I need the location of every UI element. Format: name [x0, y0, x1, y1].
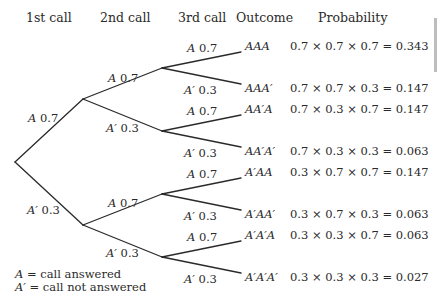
probability-2: 0.7 × 0.7 × 0.3 = 0.147	[290, 82, 429, 94]
label-branch-3-1: A 0.7	[187, 42, 217, 54]
label-branch-3-5: A 0.7	[187, 168, 217, 180]
outcome-1: AAA	[245, 40, 270, 52]
label-branch-3-2: A′ 0.3	[184, 84, 217, 96]
outcome-2: AAA′	[245, 82, 273, 94]
probability-1: 0.7 × 0.7 × 0.7 = 0.343	[290, 40, 429, 52]
header-second-call: 2nd call	[100, 10, 150, 25]
branch-1-A	[15, 99, 83, 162]
label-branch-1-Aprime: A′ 0.3	[27, 204, 60, 216]
outcome-5: A′AA	[245, 166, 273, 178]
label-branch-2-1: A 0.7	[108, 72, 138, 84]
branch-3-leaf-8	[162, 257, 241, 273]
legend-not-answered: A′ = call not answered	[15, 281, 146, 293]
header-third-call: 3rd call	[178, 10, 226, 25]
outcome-8: A′A′A′	[245, 271, 278, 283]
branch-3-leaf-6	[162, 194, 241, 210]
probability-6: 0.3 × 0.7 × 0.3 = 0.063	[290, 208, 429, 220]
header-first-call: 1st call	[26, 10, 72, 25]
branch-3-leaf-4	[162, 131, 241, 147]
branch-3-leaf-2	[162, 68, 241, 84]
probability-7: 0.3 × 0.3 × 0.7 = 0.063	[290, 229, 429, 241]
legend-answered: A = call answered	[15, 268, 121, 280]
outcome-4: AA′A′	[245, 145, 275, 157]
probability-4: 0.7 × 0.3 × 0.3 = 0.063	[290, 145, 429, 157]
label-branch-2-4: A′ 0.3	[106, 247, 139, 259]
header-probability: Probability	[318, 10, 387, 25]
label-branch-1-A: A 0.7	[28, 112, 58, 124]
label-branch-3-3: A 0.7	[187, 105, 217, 117]
outcome-6: A′AA′	[245, 208, 275, 220]
outcome-7: A′A′A	[245, 229, 275, 241]
outcome-3: AA′A	[245, 103, 273, 115]
header-outcome: Outcome	[236, 10, 293, 25]
probability-3: 0.7 × 0.3 × 0.7 = 0.147	[290, 103, 429, 115]
label-branch-3-6: A′ 0.3	[184, 210, 217, 222]
label-branch-3-7: A 0.7	[187, 231, 217, 243]
probability-5: 0.3 × 0.7 × 0.7 = 0.147	[290, 166, 429, 178]
label-branch-3-8: A′ 0.3	[184, 273, 217, 285]
label-branch-2-2: A′ 0.3	[106, 122, 139, 134]
probability-8: 0.3 × 0.3 × 0.3 = 0.027	[290, 271, 429, 283]
label-branch-2-3: A 0.7	[108, 197, 138, 209]
label-branch-3-4: A′ 0.3	[184, 147, 217, 159]
